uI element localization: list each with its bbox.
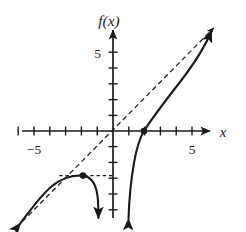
local-maximum-point xyxy=(80,172,87,179)
plot-canvas: f(x) x 5 5 −5 xyxy=(0,0,246,232)
y-tick-label-5: 5 xyxy=(94,46,101,61)
y-axis-label: f(x) xyxy=(98,12,120,30)
left-branch-curve xyxy=(20,175,98,223)
x-intercept-point xyxy=(141,128,148,135)
x-axis-label: x xyxy=(219,124,227,140)
function-graph-figure: f(x) x 5 5 −5 xyxy=(0,0,246,232)
x-tick-label-negative-5: −5 xyxy=(27,142,42,157)
asymptote-dashed-line xyxy=(17,28,214,227)
x-tick-label-5: 5 xyxy=(189,142,196,157)
axes-group xyxy=(22,30,210,218)
right-branch-curve xyxy=(129,31,212,219)
